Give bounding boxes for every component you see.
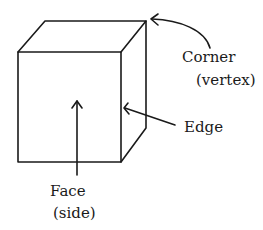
cube-front-face [18, 52, 121, 162]
corner-label: Corner [182, 48, 236, 66]
cube [18, 21, 146, 162]
cube-right-face [121, 21, 146, 162]
face-arrow [72, 101, 82, 175]
corner-sublabel: (vertex) [196, 71, 256, 89]
edge-arrow [124, 103, 175, 125]
face-sublabel: (side) [53, 204, 96, 222]
face-label: Face [50, 182, 86, 200]
corner-arrow [151, 14, 210, 48]
edge-label: Edge [184, 118, 223, 136]
cube-top-face [18, 21, 146, 52]
cube-diagram: Corner (vertex) Edge Face (side) [0, 0, 263, 230]
